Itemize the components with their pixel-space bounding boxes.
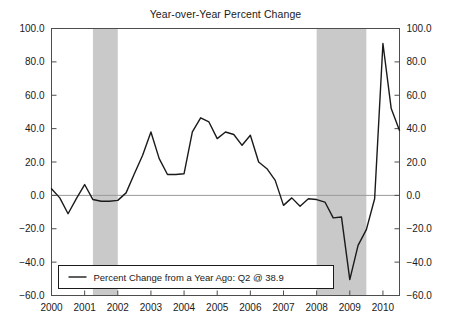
- year-tick-label: 2003: [140, 302, 163, 313]
- left-tick-label: 0.0: [31, 190, 45, 201]
- legend-label: Percent Change from a Year Ago: Q2 @ 38.…: [94, 272, 284, 283]
- right-tick-label: 100.0: [407, 23, 432, 34]
- year-tick-label: 2009: [339, 302, 362, 313]
- left-tick-label: 60.0: [25, 90, 45, 101]
- year-tick-label: 2010: [372, 302, 395, 313]
- right-tick-label: −20.0: [407, 223, 433, 234]
- year-tick-label: 2005: [206, 302, 229, 313]
- right-tick-label: 20.0: [407, 157, 427, 168]
- year-tick-label: 2002: [107, 302, 130, 313]
- left-tick-label: 80.0: [25, 56, 45, 67]
- right-tick-label: 80.0: [407, 56, 427, 67]
- year-tick-label: 2004: [173, 302, 196, 313]
- year-tick-label: 2007: [272, 302, 295, 313]
- left-value-axis: 100.080.060.040.020.00.0−20.0−40.0−60.0: [19, 23, 56, 301]
- right-value-axis: 100.080.060.040.020.00.0−20.0−40.0−60.0: [395, 23, 433, 301]
- recession-band-2008: [317, 29, 367, 296]
- left-tick-label: −40.0: [19, 257, 45, 268]
- right-tick-label: −60.0: [407, 290, 433, 301]
- right-tick-label: 0.0: [407, 190, 421, 201]
- left-tick-label: −20.0: [19, 223, 45, 234]
- year-tick-label: 2000: [40, 302, 63, 313]
- left-tick-label: 40.0: [25, 123, 45, 134]
- left-tick-label: 100.0: [19, 23, 44, 34]
- right-tick-label: −40.0: [407, 257, 433, 268]
- year-tick-label: 2006: [239, 302, 262, 313]
- right-tick-label: 60.0: [407, 90, 427, 101]
- recession-band-2001: [93, 29, 118, 296]
- left-tick-label: −60.0: [19, 290, 45, 301]
- right-tick-label: 40.0: [407, 123, 427, 134]
- recession-bands: [93, 29, 366, 296]
- year-tick-label: 2001: [74, 302, 97, 313]
- chart-legend: Percent Change from a Year Ago: Q2 @ 38.…: [59, 266, 334, 289]
- left-tick-label: 20.0: [25, 157, 45, 168]
- year-tick-label: 2008: [306, 302, 329, 313]
- chart-plot-svg: 100.080.060.040.020.00.0−20.0−40.0−60.0 …: [0, 0, 451, 328]
- chart-container: Year-over-Year Percent Change 100.080.06…: [0, 0, 451, 328]
